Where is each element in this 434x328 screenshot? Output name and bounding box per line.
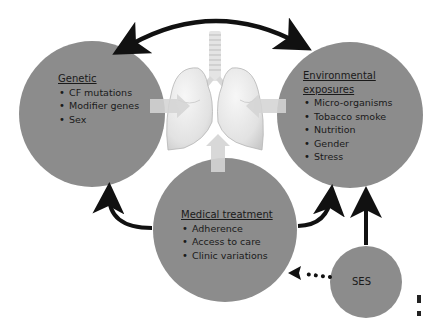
cropped-edge-mark (417, 295, 421, 303)
medical-to-environmental-arrow (298, 196, 331, 226)
medical-to-genetic-arrow (109, 194, 152, 228)
environmental-items: Micro-organisms Tobacco smoke Nutrition … (303, 96, 393, 164)
ses-to-medical-dotted-arrow (304, 274, 330, 277)
list-item: Sex (58, 113, 139, 127)
medical-items: Adherence Access to care Clinic variatio… (181, 222, 273, 263)
list-item: Gender (303, 137, 393, 151)
genetic-node: Genetic CF mutations Modifier genes Sex (58, 72, 139, 126)
cropped-edge-mark (417, 311, 421, 316)
environmental-node: Environmental exposures Micro-organisms … (303, 69, 393, 164)
list-item: CF mutations (58, 86, 139, 100)
list-item: Clinic variations (181, 249, 273, 263)
medical-title: Medical treatment (181, 208, 273, 222)
list-item: Stress (303, 150, 393, 164)
list-item: Adherence (181, 222, 273, 236)
list-item: Tobacco smoke (303, 110, 393, 124)
list-item: Nutrition (303, 123, 393, 137)
medical-node: Medical treatment Adherence Access to ca… (181, 208, 273, 262)
ses-label: SES (352, 276, 371, 287)
list-item: Modifier genes (58, 99, 139, 113)
lungs-illustration (167, 31, 264, 150)
environmental-title-line1: Environmental (303, 69, 393, 83)
genetic-items: CF mutations Modifier genes Sex (58, 86, 139, 127)
list-item: Micro-organisms (303, 96, 393, 110)
ses-to-medical-arrowhead (288, 266, 301, 280)
environmental-title-line2: exposures (303, 83, 393, 97)
list-item: Access to care (181, 235, 273, 249)
genetic-title: Genetic (58, 72, 139, 86)
